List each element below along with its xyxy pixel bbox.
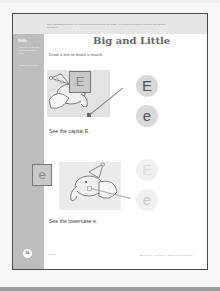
footer-copyright: Spell & Write • ABC 1010 • ©2010 by Free… [140, 254, 193, 256]
instruction-text: Draw a line to make a match. [49, 52, 103, 57]
sidebar: Skills Matching capital and lowercase fo… [13, 34, 44, 269]
sidebar-skills-text: Matching capital and lowercase forms of … [18, 46, 42, 55]
page-number: 56 [23, 249, 32, 258]
caption-lowercase: See the lowercase e. [49, 218, 97, 224]
top-edge [0, 0, 220, 3]
sidebar-extra-text: Visual discrimination [18, 64, 42, 67]
choice-lowercase-e-2[interactable]: e [136, 189, 158, 211]
sidebar-title: Skills [18, 39, 27, 43]
worksheet-page: Note: Throughout the book, tell your stu… [12, 13, 208, 270]
page-title: Big and Little [93, 35, 170, 46]
header-band: Note: Throughout the book, tell your stu… [13, 14, 207, 34]
footer-unit: Unit 3 [49, 253, 56, 256]
header-note: Note: Throughout the book, tell your stu… [47, 23, 167, 29]
choice-capital-e-2[interactable]: E [136, 159, 158, 181]
caption-capital: See the capital E. [49, 128, 90, 134]
capital-letter-card: E [69, 71, 91, 93]
lowercase-letter-card: e [32, 164, 52, 186]
choice-capital-e-1[interactable]: E [136, 75, 158, 97]
choice-lowercase-e-1[interactable]: e [136, 105, 158, 127]
bottom-edge [0, 287, 220, 291]
